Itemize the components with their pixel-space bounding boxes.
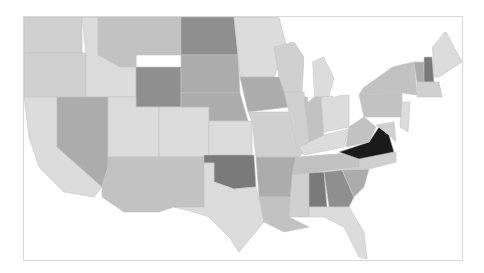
state-ms[interactable]: [289, 173, 309, 217]
state-az[interactable]: [102, 157, 159, 212]
state-wa[interactable]: [24, 17, 82, 53]
state-ks[interactable]: [209, 121, 252, 155]
state-fl[interactable]: [309, 207, 367, 259]
state-pa[interactable]: [359, 93, 402, 117]
state-nh[interactable]: [424, 57, 434, 82]
state-wy[interactable]: [136, 67, 181, 107]
state-ma[interactable]: [417, 82, 442, 97]
state-al[interactable]: [309, 172, 327, 207]
state-co[interactable]: [159, 107, 209, 157]
state-sd[interactable]: [181, 55, 240, 93]
state-or[interactable]: [24, 53, 86, 97]
lake-superior: [279, 17, 334, 42]
state-oh[interactable]: [321, 95, 349, 132]
us-choropleth-map[interactable]: [24, 17, 462, 260]
state-ar[interactable]: [256, 157, 296, 197]
state-nj[interactable]: [400, 102, 410, 132]
state-mt[interactable]: [98, 17, 181, 67]
state-nm[interactable]: [159, 157, 204, 212]
map-frame: [23, 16, 463, 261]
state-nd[interactable]: [181, 17, 238, 55]
